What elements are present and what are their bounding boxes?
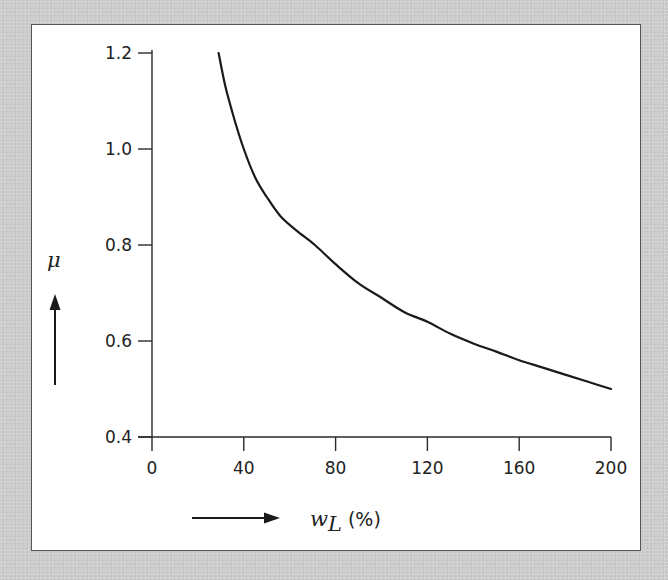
x-tick-label: 80 [325, 458, 347, 478]
x-axis-arrow-icon [192, 513, 280, 524]
y-tick-label: 0.8 [105, 235, 132, 255]
x-tick-label: 120 [411, 458, 443, 478]
line-chart: 0.40.60.81.01.2 04080120160200 μ wL(%) [32, 25, 642, 552]
x-tick-label: 200 [595, 458, 627, 478]
y-axis-label: μ [47, 248, 61, 272]
chart-frame: 0.40.60.81.01.2 04080120160200 μ wL(%) [31, 24, 641, 551]
x-tick-label: 160 [503, 458, 535, 478]
data-curve [219, 53, 611, 389]
y-tick-label: 0.4 [105, 427, 132, 447]
y-tick-label: 1.2 [105, 43, 132, 63]
x-tick-label: 40 [233, 458, 255, 478]
y-axis: 0.40.60.81.01.2 [105, 43, 152, 451]
y-axis-arrow-icon [50, 294, 61, 385]
y-tick-label: 0.6 [105, 331, 132, 351]
x-axis: 04080120160200 [138, 437, 627, 478]
y-tick-label: 1.0 [105, 139, 132, 159]
x-tick-label: 0 [147, 458, 158, 478]
x-axis-label: wL(%) [310, 507, 381, 536]
